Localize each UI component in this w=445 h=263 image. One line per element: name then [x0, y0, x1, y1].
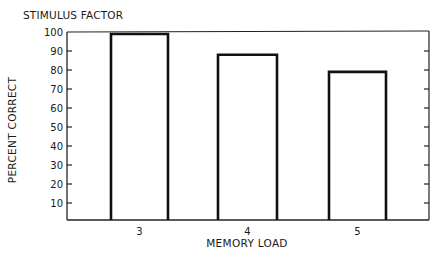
x-tick-label: 3 — [136, 226, 142, 237]
bar-3 — [111, 34, 168, 220]
x-tick-label: 4 — [244, 226, 250, 237]
y-tick-label: 30 — [50, 160, 63, 171]
y-tick-label: 90 — [50, 46, 63, 57]
y-tick-label: 100 — [44, 27, 63, 38]
y-tick-label: 40 — [50, 141, 63, 152]
y-tick-label: 20 — [50, 179, 63, 190]
top-frame-line — [67, 31, 429, 32]
x-tick-label: 5 — [354, 226, 360, 237]
bar-chart-plot: 102030405060708090100345 — [0, 0, 445, 263]
y-tick-label: 60 — [50, 103, 63, 114]
y-tick-label: 50 — [50, 122, 63, 133]
bar-4 — [218, 55, 277, 220]
y-tick-label: 10 — [50, 198, 63, 209]
y-tick-label: 70 — [50, 84, 63, 95]
bar-5 — [329, 72, 386, 220]
y-tick-label: 80 — [50, 65, 63, 76]
